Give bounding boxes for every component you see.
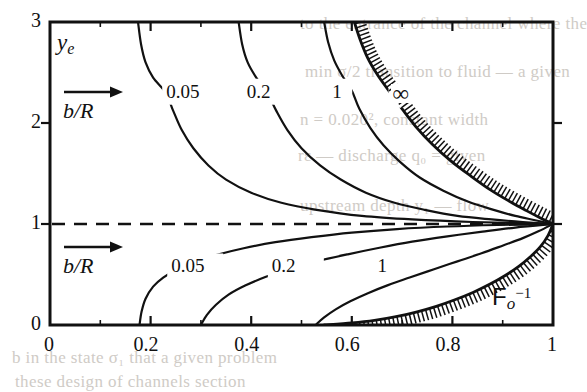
x-tick-label: 0.8 xyxy=(435,333,460,356)
x-tick-label: 0.2 xyxy=(134,333,159,356)
x-tick-label: 0.6 xyxy=(335,333,360,356)
x-axis-title: Fo−1 xyxy=(492,283,531,314)
x-axis-title-superscript: −1 xyxy=(515,285,531,301)
contour-label: 0.05 xyxy=(169,255,206,277)
x-tick-label: 0.4 xyxy=(234,333,259,356)
x-axis-title-base: F xyxy=(492,283,507,310)
contour-curve xyxy=(239,22,553,224)
contour-curve xyxy=(354,22,553,224)
contour-label: 0.2 xyxy=(245,81,273,103)
contour-curve xyxy=(324,22,553,224)
y-axis-title-base: y xyxy=(57,30,67,55)
legend-label-br-upper: b/R xyxy=(63,98,94,124)
plot-frame xyxy=(50,22,553,325)
y-axis-title-subscript: e xyxy=(67,40,74,57)
contour-label: 0.2 xyxy=(270,255,298,277)
x-tick-label: 1 xyxy=(547,333,557,356)
y-tick-label: 2 xyxy=(31,110,41,133)
contour-curves xyxy=(138,22,553,325)
y-tick-label: 3 xyxy=(31,9,41,32)
y-tick-label: 0 xyxy=(31,312,41,335)
contour-curve xyxy=(138,22,553,224)
y-axis-title: ye xyxy=(57,30,74,58)
x-tick-label: 0 xyxy=(44,333,54,356)
x-axis-title-subscript: o xyxy=(507,294,516,313)
axis-ticks xyxy=(41,22,562,325)
contour-label: 1 xyxy=(330,81,344,103)
y-tick-label: 1 xyxy=(31,211,41,234)
contour-label: 1 xyxy=(375,255,389,277)
legend-label-br-lower: b/R xyxy=(63,253,94,279)
contour-label: 0.05 xyxy=(164,81,201,103)
contour-label: ∞ xyxy=(391,84,411,103)
